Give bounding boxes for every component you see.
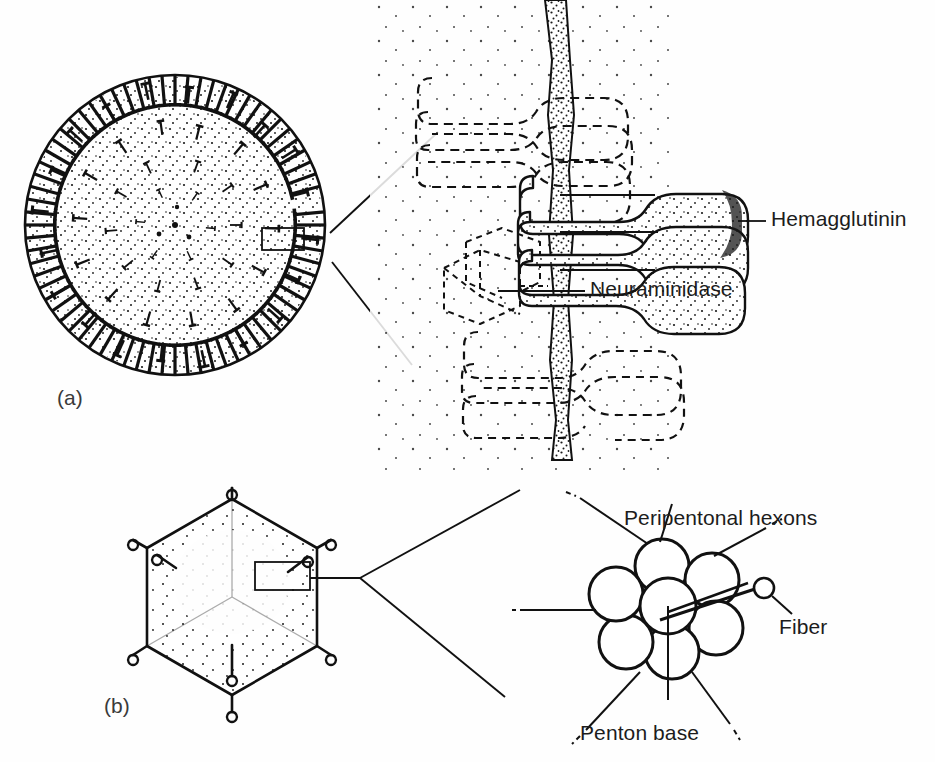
virus-structure-figure: Hemagglutinin Neuraminidase Peripentonal… xyxy=(0,0,935,762)
fiber-label: Fiber xyxy=(779,615,827,639)
panel-b-tag: (b) xyxy=(104,694,130,718)
panel-b-leader-lines xyxy=(310,490,520,697)
peripentonal-hexon-6 xyxy=(589,567,643,621)
fiber-leader-line xyxy=(772,596,792,614)
adenovirus-capsid-overview xyxy=(128,488,336,722)
panel-a-tag: (a) xyxy=(57,386,83,410)
neuraminidase-label: Neuraminidase xyxy=(590,277,733,301)
fiber-knob xyxy=(754,578,774,598)
panel-a-artwork xyxy=(20,0,766,470)
peripentonal-hexons-label: Peripentonal hexons xyxy=(624,506,817,530)
penton-base-label: Penton base xyxy=(580,721,699,745)
hemagglutinin-label: Hemagglutinin xyxy=(771,207,907,231)
influenza-virion-overview xyxy=(20,70,335,385)
figure-artwork xyxy=(0,0,935,762)
influenza-envelope-detail xyxy=(370,0,766,470)
